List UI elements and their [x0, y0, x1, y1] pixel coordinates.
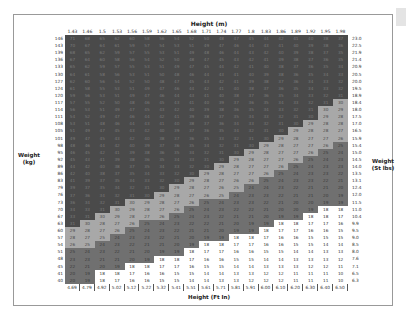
- bmi-cell: 11: [303, 270, 318, 277]
- height-ft-label: 4.92: [95, 284, 110, 291]
- bmi-cell: 57: [110, 63, 125, 70]
- bmi-cell: 34: [333, 63, 348, 70]
- bmi-cell: 37: [110, 170, 125, 177]
- bmi-cell: 26: [229, 177, 244, 184]
- weight-kg-label: 60: [42, 227, 63, 234]
- weight-st-label: 15.0: [352, 149, 370, 156]
- bmi-cell: 38: [184, 120, 199, 127]
- bmi-cell: 40: [214, 92, 229, 99]
- weight-kg-label: 89: [42, 163, 63, 170]
- bmi-cell: 30: [303, 113, 318, 120]
- weight-st-label: 11.0: [352, 206, 370, 213]
- bmi-cell: 46: [65, 149, 80, 156]
- bmi-cell: 23: [303, 177, 318, 184]
- bmi-cell: 28: [333, 120, 348, 127]
- bmi-cell: 34: [95, 192, 110, 199]
- bmi-cell: 30: [154, 184, 169, 191]
- bottom-axis-title: Height (Ft In): [0, 294, 406, 300]
- weight-st-label: 15.9: [352, 135, 370, 142]
- bmi-cell: 22: [229, 206, 244, 213]
- bmi-cell: 26: [65, 241, 80, 248]
- bmi-cell: 37: [199, 120, 214, 127]
- bmi-cell: 19: [169, 248, 184, 255]
- height-ft-label: 6.00: [259, 284, 274, 291]
- bmi-cell: 26: [199, 192, 214, 199]
- bmi-cell: 41: [199, 92, 214, 99]
- bmi-cell: 49: [65, 135, 80, 142]
- bmi-cell: 30: [139, 192, 154, 199]
- bmi-cell: 36: [288, 71, 303, 78]
- bmi-cell: 18: [154, 256, 169, 263]
- bmi-cell: 37: [274, 78, 289, 85]
- bmi-cell: 41: [154, 120, 169, 127]
- bmi-cell: 12: [244, 277, 259, 284]
- bmi-cell: 26: [125, 220, 140, 227]
- weight-st-label: 14.0: [352, 163, 370, 170]
- bmi-cell: 52: [184, 35, 199, 42]
- bmi-cell: 23: [95, 248, 110, 255]
- bmi-cell: 27: [333, 127, 348, 134]
- bmi-cell: 17: [214, 248, 229, 255]
- bmi-cell: 28: [274, 142, 289, 149]
- bmi-cell: 26: [169, 206, 184, 213]
- bmi-cell: 48: [214, 35, 229, 42]
- bmi-cell: 14: [214, 270, 229, 277]
- bmi-cell: 49: [169, 63, 184, 70]
- weight-kg-label: 111: [42, 113, 63, 120]
- bmi-cell: 38: [274, 63, 289, 70]
- bmi-cell: 31: [110, 199, 125, 206]
- weight-kg-label: 127: [42, 78, 63, 85]
- bmi-cell: 37: [214, 113, 229, 120]
- bmi-cell: 48: [184, 56, 199, 63]
- bmi-cell: 56: [65, 106, 80, 113]
- bmi-cell: 30: [288, 120, 303, 127]
- bmi-cell: 43: [125, 127, 140, 134]
- bmi-cell: 17: [110, 277, 125, 284]
- left-axis-title-line2: (kg): [16, 159, 42, 166]
- bmi-cell: 24: [139, 227, 154, 234]
- bmi-cell: 16: [333, 220, 348, 227]
- bmi-cell: 38: [229, 92, 244, 99]
- bmi-cell: 46: [184, 71, 199, 78]
- bmi-cell: 38: [139, 149, 154, 156]
- bmi-cell: 48: [169, 71, 184, 78]
- weight-st-label: 12.0: [352, 191, 370, 198]
- bmi-cell: 43: [169, 99, 184, 106]
- bmi-cell: 17: [244, 241, 259, 248]
- bmi-cell: 36: [318, 56, 333, 63]
- bmi-cell: 23: [139, 234, 154, 241]
- bmi-cell: 18: [95, 270, 110, 277]
- bmi-cell: 20: [288, 206, 303, 213]
- bmi-cell: 35: [169, 149, 184, 156]
- bmi-cell: 15: [333, 227, 348, 234]
- bmi-cell: 21: [139, 241, 154, 248]
- bmi-cell: 34: [303, 85, 318, 92]
- bmi-cell: 43: [229, 56, 244, 63]
- weight-st-label: 11.5: [352, 199, 370, 206]
- bmi-cell: 26: [288, 156, 303, 163]
- bmi-cell: 46: [125, 113, 140, 120]
- bmi-cell: 55: [139, 49, 154, 56]
- bmi-cell: 54: [169, 35, 184, 42]
- bmi-cell: 13: [229, 270, 244, 277]
- bmi-cell: 51: [65, 127, 80, 134]
- bmi-cell: 62: [95, 49, 110, 56]
- bmi-cell: 45: [214, 56, 229, 63]
- bmi-cell: 17: [154, 263, 169, 270]
- weight-st-label: 9.5: [352, 227, 370, 234]
- bmi-cell: 21: [199, 227, 214, 234]
- bmi-cell: 41: [259, 56, 274, 63]
- bmi-cell: 45: [65, 156, 80, 163]
- bmi-cell: 39: [110, 156, 125, 163]
- bmi-cell: 19: [80, 277, 95, 284]
- bmi-cell: 42: [65, 170, 80, 177]
- bmi-cell: 19: [229, 227, 244, 234]
- bmi-cell: 35: [184, 142, 199, 149]
- bmi-cell: 49: [125, 92, 140, 99]
- bmi-cell: 30: [333, 99, 348, 106]
- weight-st-label: 15.4: [352, 142, 370, 149]
- bmi-cell: 32: [154, 177, 169, 184]
- bmi-cell: 32: [184, 163, 199, 170]
- bmi-cell: 26: [259, 170, 274, 177]
- bmi-cell: 28: [214, 170, 229, 177]
